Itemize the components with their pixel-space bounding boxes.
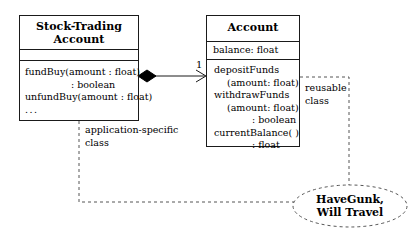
association-multiplicity-label: 1 (196, 59, 202, 70)
note-line-2: Will Travel (300, 206, 400, 219)
class-box-stock-trading-account[interactable]: Stock-Trading Account fundBuy(amount : f… (19, 15, 139, 121)
class-attributes-compartment-account: balance: float (207, 42, 299, 60)
class-title-stock-trading: Stock-Trading Account (20, 16, 138, 51)
class-operations-compartment-account: depositFunds (amount: float) withdrawFun… (207, 60, 299, 146)
operation-row: depositFunds (207, 64, 299, 77)
class-operations-compartment-stock-trading: fundBuy(amount : float) : boolean unfund… (20, 61, 138, 121)
operation-row-ellipsis: ... (25, 104, 138, 117)
operation-row: (amount: float) (207, 77, 299, 90)
annotation-line-1: reusable (305, 82, 347, 95)
annotation-line-2: class (85, 137, 178, 150)
operation-row: fundBuy(amount : float) (25, 66, 138, 79)
composition-diamond (138, 70, 156, 82)
note-line-1: HaveGunk, (300, 193, 400, 206)
annotation-line-2: class (305, 95, 347, 108)
class-box-account[interactable]: Account balance: float depositFunds (amo… (206, 15, 300, 147)
class-attributes-compartment-stock-trading (20, 50, 138, 61)
operation-row: unfundBuy(amount : float) (25, 91, 138, 104)
class-title-line-2: Account (22, 33, 136, 46)
operation-row: (amount: float) (207, 102, 299, 115)
operation-row: : boolean (25, 79, 138, 92)
operation-row: withdrawFunds (207, 89, 299, 102)
annotation-reusable-class: reusable class (305, 82, 347, 107)
operation-row: : boolean (207, 114, 299, 127)
class-title-compartment-stock-trading: Stock-Trading Account (20, 16, 138, 50)
annotation-line-1: application-specific (85, 124, 178, 137)
operation-row: currentBalance( ) (207, 127, 299, 140)
uml-diagram-canvas: Stock-Trading Account fundBuy(amount : f… (0, 0, 410, 233)
annotation-application-specific: application-specific class (85, 124, 178, 149)
class-title-compartment-account: Account (207, 16, 299, 42)
attribute-row: balance: float (207, 42, 299, 58)
note-oval-text: HaveGunk, Will Travel (300, 193, 400, 219)
class-title-account: Account (207, 16, 299, 39)
class-title-line-1: Stock-Trading (22, 20, 136, 33)
operation-row: : float (207, 139, 299, 152)
